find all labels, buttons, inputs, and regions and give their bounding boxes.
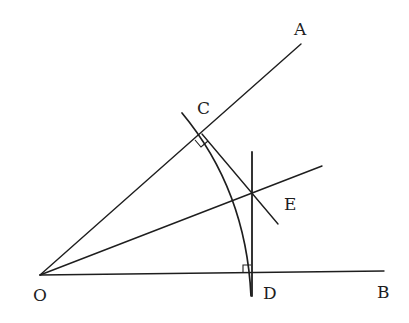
- label-c: C: [197, 98, 210, 118]
- angle-bisector-diagram: O A B C D E: [0, 0, 409, 323]
- bisector-oe: [40, 166, 322, 275]
- label-o: O: [33, 285, 47, 305]
- ray-oa: [40, 44, 301, 275]
- label-a: A: [293, 19, 307, 39]
- label-d: D: [263, 283, 277, 303]
- perpendicular-at-c: [202, 134, 278, 224]
- ray-ob: [40, 271, 384, 275]
- label-b: B: [377, 282, 390, 302]
- label-e: E: [284, 194, 296, 214]
